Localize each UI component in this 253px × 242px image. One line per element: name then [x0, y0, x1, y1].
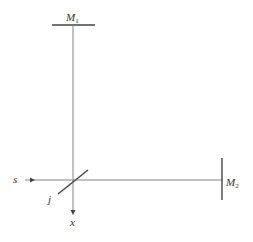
label-source: s [13, 173, 17, 185]
interferometer-diagram: M1 M2 s j x [0, 0, 253, 242]
label-m2: M2 [225, 176, 239, 190]
diagram-svg: M1 M2 s j x [0, 0, 253, 242]
output-arrow-icon [71, 210, 76, 215]
label-m1: M1 [65, 11, 79, 25]
label-output: x [69, 216, 75, 228]
label-splitter: j [46, 193, 51, 205]
source-arrow-icon [30, 178, 35, 183]
